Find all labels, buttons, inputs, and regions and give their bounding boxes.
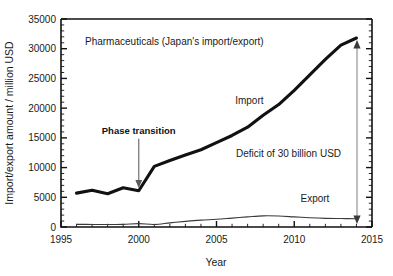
y-tick-label: 0 <box>50 222 56 233</box>
y-tick-label: 20000 <box>28 103 56 114</box>
y-tick-label: 5000 <box>34 192 57 203</box>
x-tick-label: 2000 <box>128 234 151 245</box>
series-label-export: Export <box>300 193 329 204</box>
x-tick-label: 2005 <box>205 234 228 245</box>
x-axis-title: Year <box>205 256 227 268</box>
chart-figure: 05000100001500020000250003000035000 1995… <box>0 0 393 276</box>
y-tick-label: 25000 <box>28 73 56 84</box>
chart-title: Pharmaceuticals (Japan's import/export) <box>85 36 264 47</box>
x-tick-label: 1995 <box>50 234 73 245</box>
x-tick-label: 2015 <box>361 234 384 245</box>
x-tick-label: 2010 <box>283 234 306 245</box>
y-tick-label: 15000 <box>28 132 56 143</box>
y-tick-label: 10000 <box>28 162 56 173</box>
y-tick-label: 35000 <box>28 14 56 25</box>
y-tick-label: 30000 <box>28 43 56 54</box>
import-export-line-chart: 05000100001500020000250003000035000 1995… <box>0 0 393 276</box>
deficit-label: Deficit of 30 billion USD <box>236 148 341 159</box>
phase-transition-label: Phase transition <box>102 125 176 136</box>
series-label-import: Import <box>235 95 264 106</box>
y-axis-title: Import/export amount / million USD <box>3 41 15 205</box>
